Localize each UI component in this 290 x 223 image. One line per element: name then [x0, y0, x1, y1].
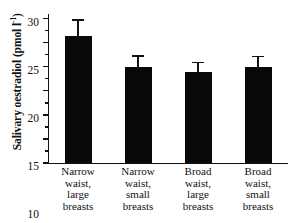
error-bar-cap — [252, 56, 264, 57]
error-bar-cap — [72, 19, 84, 20]
error-bar-stem — [257, 56, 258, 67]
y-axis-line — [48, 14, 49, 163]
category-label-line: breasts — [168, 201, 228, 213]
bar — [65, 36, 92, 163]
error-bar-stem — [77, 19, 78, 36]
y-axis-minor-tick — [45, 30, 48, 31]
y-axis-tick: 10 — [43, 114, 48, 115]
category-label-line: Narrow — [48, 166, 108, 178]
x-axis-category-label: Broadwaist,largebreasts — [168, 166, 228, 212]
y-axis-tick-label: 20 — [28, 113, 40, 125]
y-axis-tick: 25 — [43, 42, 48, 43]
plot-area: 051015202530 Narrowwaist,largebreastsNar… — [48, 14, 288, 163]
error-bar-cap — [132, 55, 144, 56]
y-axis-tick-label: 10 — [28, 210, 40, 222]
error-bar-stem — [197, 62, 198, 73]
x-axis-category-label: Narrowwaist,largebreasts — [48, 166, 108, 212]
y-axis-tick: 0 — [43, 162, 48, 163]
category-label-line: breasts — [228, 201, 288, 213]
category-label-line: small — [228, 189, 288, 201]
category-label-line: Narrow — [108, 166, 168, 178]
y-axis-title-text: Salivary oestradiol (pmol l — [11, 23, 23, 150]
category-label-line: small — [108, 189, 168, 201]
y-axis-tick: 15 — [43, 90, 48, 91]
y-axis-minor-tick — [45, 54, 48, 55]
x-axis-category-label: Narrowwaist,smallbreasts — [108, 166, 168, 212]
category-label-line: breasts — [108, 201, 168, 213]
category-label-line: large — [168, 189, 228, 201]
bar-chart-figure: Salivary oestradiol (pmol l-1) 051015202… — [0, 0, 290, 223]
y-axis-tick-label: 15 — [28, 161, 40, 173]
y-axis-title-tail: ) — [11, 13, 23, 17]
y-axis-minor-tick — [45, 126, 48, 127]
category-label-line: large — [48, 189, 108, 201]
bar — [245, 67, 272, 163]
error-bar-stem — [137, 55, 138, 67]
y-axis-tick-label: 30 — [28, 17, 40, 29]
category-label-line: Broad — [168, 166, 228, 178]
error-bar-cap — [192, 62, 204, 63]
y-axis-title-exponent: -1 — [9, 17, 18, 23]
category-label-line: Broad — [228, 166, 288, 178]
y-axis-minor-tick — [45, 102, 48, 103]
bar — [185, 72, 212, 163]
category-label-line: breasts — [48, 201, 108, 213]
y-axis-tick: 30 — [43, 18, 48, 19]
x-axis-category-label: Broadwaist,smallbreasts — [228, 166, 288, 212]
y-axis-tick: 5 — [43, 138, 48, 139]
y-axis-tick: 20 — [43, 66, 48, 67]
y-axis-tick-label: 25 — [28, 65, 40, 77]
y-axis-minor-tick — [45, 150, 48, 151]
bar — [125, 67, 152, 163]
y-axis-minor-tick — [45, 78, 48, 79]
y-axis-title: Salivary oestradiol (pmol l-1) — [12, 2, 24, 162]
